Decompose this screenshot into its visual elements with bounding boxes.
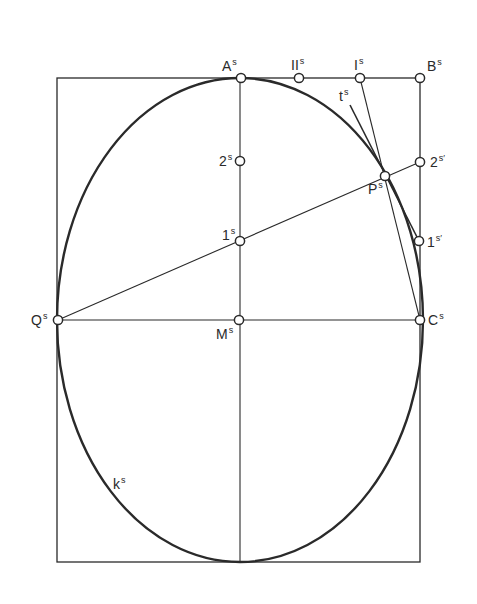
point-C-marker xyxy=(415,315,424,324)
point-Q-marker xyxy=(53,315,62,324)
point-1s-label: 1s xyxy=(222,226,236,243)
point-1sp-marker xyxy=(414,236,423,245)
point-2sp-label: 2s′ xyxy=(430,153,445,170)
line-I-to-C-line xyxy=(360,78,420,320)
point-2sp-marker xyxy=(415,157,424,166)
point-2s-label: 2s xyxy=(219,152,233,169)
point-C-label: Cs xyxy=(428,311,444,328)
point-B-label: Bs xyxy=(427,57,442,74)
point-A-label: As xyxy=(222,57,237,74)
point-I-marker xyxy=(355,73,364,82)
construction-points xyxy=(53,73,424,324)
tangent-t-label: ts xyxy=(339,87,349,104)
point-2s-marker xyxy=(235,156,244,165)
point-B-marker xyxy=(415,73,424,82)
point-M-marker xyxy=(234,315,243,324)
ellipse-construction-diagram: AsIIsIsBs2s2s′Ps1s1s′QsMsCstsks xyxy=(0,0,477,604)
point-I-label: Is xyxy=(354,56,364,73)
point-A-marker xyxy=(236,73,245,82)
point-Q-label: Qs xyxy=(31,311,48,328)
point-1sp-label: 1s′ xyxy=(427,233,442,250)
point-II-marker xyxy=(294,73,303,82)
point-P-label: Ps xyxy=(368,180,383,197)
point-1s-marker xyxy=(235,236,244,245)
point-labels: AsIIsIsBs2s2s′Ps1s1s′QsMsCstsks xyxy=(31,56,445,492)
ellipse-k-label: ks xyxy=(113,475,126,492)
point-II-label: IIs xyxy=(291,56,305,73)
point-M-label: Ms xyxy=(216,325,234,342)
